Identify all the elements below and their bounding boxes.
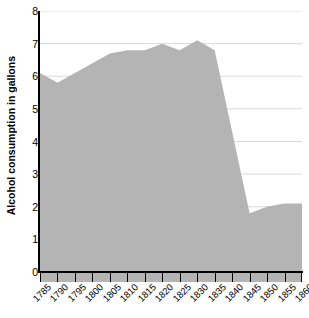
- x-tick-mark-1835: [215, 273, 216, 282]
- x-tick-mark-1855: [285, 273, 286, 282]
- x-axis-tick-labels: 1785179017951800180518101815182018251830…: [40, 282, 302, 318]
- x-tick-mark-1810: [127, 273, 128, 282]
- x-tick-mark-1815: [145, 273, 146, 282]
- x-tick-mark-1860: [301, 273, 302, 282]
- area-series-alcohol-consumption: [40, 40, 302, 272]
- plot-svg: [40, 11, 302, 272]
- y-tick-label-4: 4: [24, 136, 38, 147]
- y-tick-label-3: 3: [24, 169, 38, 180]
- y-tick-label-6: 6: [24, 71, 38, 82]
- x-tick-mark-1785: [40, 273, 41, 282]
- x-tick-mark-1805: [110, 273, 111, 282]
- alcohol-consumption-area-chart: Alcohol consumption in gallons 012345678…: [0, 0, 309, 318]
- x-tick-label-1820: 1820: [153, 282, 175, 304]
- y-tick-label-1: 1: [24, 234, 38, 245]
- x-tick-mark-1830: [197, 273, 198, 282]
- x-tick-mark-1790: [57, 273, 58, 282]
- y-tick-label-2: 2: [24, 202, 38, 213]
- x-tick-label-1850: 1850: [258, 282, 280, 304]
- x-tick-label-1830: 1830: [188, 282, 210, 304]
- x-tick-mark-1825: [180, 273, 181, 282]
- x-tick-mark-1850: [267, 273, 268, 282]
- y-axis-title-text: Alcohol consumption in gallons: [5, 56, 17, 215]
- x-tick-mark-1820: [162, 273, 163, 282]
- y-tick-label-5: 5: [24, 104, 38, 115]
- x-tick-mark-1795: [75, 273, 76, 282]
- y-tick-label-0: 0: [24, 267, 38, 278]
- y-axis-tick-labels: 012345678: [22, 0, 38, 272]
- x-tick-label-1860: 1860: [293, 282, 309, 304]
- plot-area: [40, 11, 302, 272]
- x-tick-label-1840: 1840: [223, 282, 245, 304]
- y-tick-label-7: 7: [24, 38, 38, 49]
- x-tick-mark-1845: [250, 273, 251, 282]
- y-tick-label-8: 8: [24, 6, 38, 17]
- x-tick-mark-1840: [232, 273, 233, 282]
- x-tick-mark-1800: [92, 273, 93, 282]
- y-axis-line: [38, 11, 40, 273]
- y-axis-title: Alcohol consumption in gallons: [0, 0, 22, 272]
